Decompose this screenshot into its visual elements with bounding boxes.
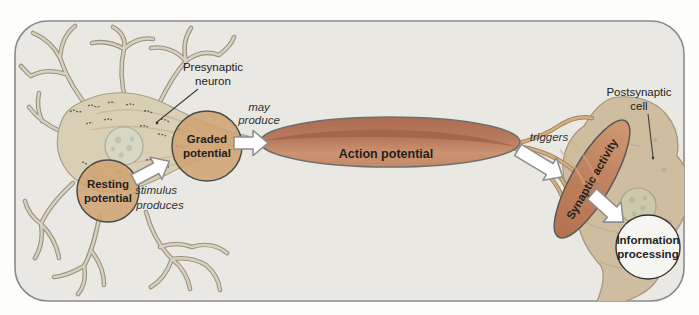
graded-potential-label-line2: potential <box>183 147 231 159</box>
resting-potential-label-line1: Resting <box>87 178 129 190</box>
resting-potential-node: Resting potential <box>77 160 139 222</box>
information-processing-label-line1: Information <box>616 234 679 246</box>
may-produce-label-line1: may <box>248 101 271 113</box>
stimulus-produces-label-line2: produces <box>135 199 184 211</box>
postsynaptic-cell-label-line2: cell <box>630 100 647 112</box>
presynaptic-pointer-dot <box>156 122 159 125</box>
postsynaptic-pointer-dot <box>652 157 655 160</box>
neuron-pathway-diagram: Action potential Synaptic activity Grade… <box>0 0 699 315</box>
presynaptic-neuron-label-line1: Presynaptic <box>183 61 243 73</box>
action-potential-label: Action potential <box>339 147 433 161</box>
information-processing-node: Information processing <box>616 215 680 279</box>
diagram-canvas: Action potential Synaptic activity Grade… <box>0 0 699 315</box>
nucleus <box>105 127 143 165</box>
presynaptic-neuron-label-line2: neuron <box>195 75 231 87</box>
resting-potential-label-line2: potential <box>84 192 132 204</box>
postsynaptic-cell-label-line1: Postsynaptic <box>606 86 671 98</box>
information-processing-label-line2: processing <box>617 248 678 260</box>
action-potential-node: Action potential <box>260 117 520 167</box>
may-produce-label-line2: produce <box>237 114 280 126</box>
triggers-label: triggers <box>530 131 569 143</box>
graded-potential-label-line1: Graded <box>187 133 227 145</box>
stimulus-produces-label-line1: stimulus <box>135 184 177 196</box>
graded-potential-node: Graded potential <box>172 111 242 181</box>
